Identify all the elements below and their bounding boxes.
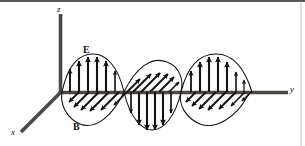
e-field-arrows-lobe-1: [70, 57, 115, 92]
wave-lobe-2: [127, 73, 179, 130]
b-field-arrows-lobe-3: [186, 92, 251, 110]
b-field-arrows-lobe-2: [127, 73, 179, 92]
page-border: [0, 1, 305, 146]
em-wave-figure: z y x E B: [0, 0, 305, 146]
y-axis-label: y: [290, 85, 294, 94]
b-field-arrows-lobe-1: [69, 92, 127, 111]
e-field-label: E: [83, 45, 90, 55]
z-axis-label: z: [57, 5, 61, 14]
x-axis-label: x: [11, 128, 15, 137]
b-field-label: B: [73, 122, 80, 132]
wave-lobe-3: [186, 57, 251, 110]
em-wave-drawing: [0, 0, 305, 146]
x-axis: [21, 92, 61, 132]
